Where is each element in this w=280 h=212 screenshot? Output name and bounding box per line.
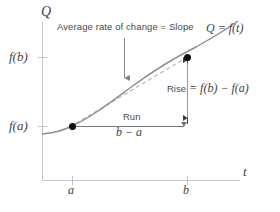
rise-label: Rise — [167, 84, 186, 94]
point-a — [69, 123, 76, 130]
x-tick-label-a: a — [68, 184, 74, 196]
average-rate-annotation: Average rate of change = Slope — [57, 22, 194, 32]
rise-expression: = f(b) − f(a) — [189, 82, 249, 94]
x-axis-label: t — [243, 165, 247, 178]
run-label: Run — [123, 112, 140, 122]
point-b — [184, 54, 191, 61]
x-tick-label-b: b — [183, 184, 189, 196]
run-expression: b − a — [116, 126, 142, 138]
y-tick-label-fb: f(b) — [9, 50, 28, 63]
rate-of-change-figure: Q t f(b) f(a) a b Q = f(t) Average rate … — [0, 0, 280, 212]
y-axis-label: Q — [41, 5, 51, 19]
y-tick-label-fa: f(a) — [9, 119, 28, 132]
curve-label: Q = f(t) — [206, 22, 243, 34]
